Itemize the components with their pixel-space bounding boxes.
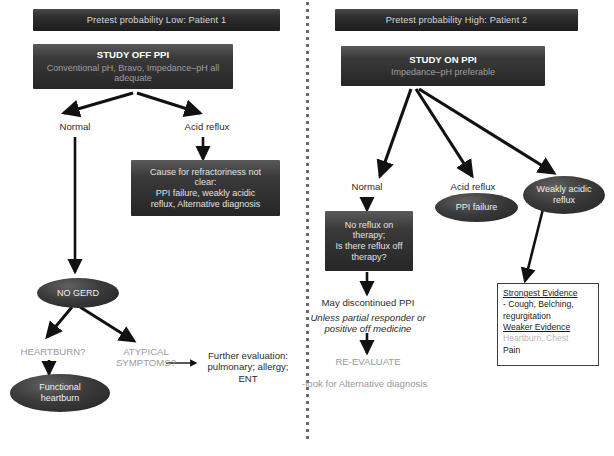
right-unless-line-1: positive off medicine [325, 323, 412, 334]
flowchart-canvas: Pretest probability Low: Patient 1 STUDY… [0, 0, 614, 456]
arrow-left-gerd-atypical [80, 307, 134, 341]
right-panel-header-text: Pretest probability High: Patient 2 [386, 15, 528, 26]
left-further-eval-line-2: ENT [238, 373, 257, 384]
right-branch-acid-reflux-label: Acid reflux [440, 180, 506, 194]
arrow-left-fork-acid [137, 93, 200, 113]
right-no-reflux-box: No reflux on therapy; Is there reflux of… [325, 211, 413, 271]
right-unless-line-0: Unless partial responder or [310, 312, 425, 323]
left-cause-box-line-1: clear: [194, 177, 216, 188]
left-branch-acid-reflux-label: Acid reflux [170, 120, 244, 134]
right-branch-normal-label: Normal [336, 180, 398, 194]
arrow-left-gerd-heartburn [47, 307, 72, 337]
left-further-eval-line-1: pulmonary; allergy; [207, 361, 288, 372]
left-further-evaluation: Further evaluation: pulmonary; allergy; … [198, 349, 298, 385]
left-functional-heartburn-oval: Functional heartburn [10, 374, 110, 412]
right-weakly-line-0: Weakly acidic [537, 184, 592, 195]
left-study-box: STUDY OFF PPI Conventional pH, Bravo, Im… [33, 44, 233, 89]
right-study-box-subtitle: Impedance–pH preferable [391, 67, 495, 78]
right-ppi-failure-label: PPI failure [456, 202, 498, 213]
left-cause-box-line-2: PPI failure, weakly acidic [156, 188, 256, 199]
arrow-right-fork-acid [416, 89, 472, 176]
right-evidence-box: Strongest Evidence - Cough, Belching, re… [497, 283, 599, 366]
right-study-box: STUDY ON PPI Impedance–pH preferable [341, 46, 545, 86]
right-panel-header: Pretest probability High: Patient 2 [335, 9, 578, 31]
right-no-reflux-line-2: Is there reflux off [336, 241, 403, 252]
arrow-right-weakly-down [525, 209, 543, 281]
arrow-right-fork-normal [380, 89, 411, 176]
right-ppi-failure-oval: PPI failure [435, 193, 518, 222]
evidence-weaker-item-1: Pain [503, 345, 593, 356]
left-branch-normal-label: Normal [40, 120, 110, 134]
left-panel-header: Pretest probability Low: Patient 1 [33, 9, 280, 31]
left-atypical-symptoms-question: ATYPICAL SYMPTOMS? [111, 343, 181, 371]
left-functional-line-0: Functional [39, 382, 81, 393]
left-further-eval-line-0: Further evaluation: [208, 350, 288, 361]
right-re-evaluate: RE-EVALUATE [318, 355, 418, 369]
right-weakly-acidic-reflux-oval: Weakly acidic reflux [523, 176, 605, 214]
evidence-weaker-title: Weaker Evidence [503, 322, 593, 333]
right-weakly-line-1: reflux [553, 195, 575, 206]
left-cause-box: Cause for refractoriness not clear: PPI … [131, 160, 280, 216]
evidence-strongest-item-0: - Cough, Belching, [503, 299, 593, 310]
left-heartburn-question: HEARTBURN? [14, 345, 92, 359]
right-study-box-title: STUDY ON PPI [409, 54, 477, 65]
left-functional-line-1: heartburn [41, 393, 80, 404]
left-cause-box-line-0: Cause for refractoriness not [150, 167, 261, 178]
right-no-reflux-line-3: therapy? [351, 252, 386, 263]
left-panel-header-text: Pretest probability Low: Patient 1 [87, 15, 226, 26]
right-no-reflux-line-0: No reflux on [345, 220, 394, 231]
right-look-alternative-diagnosis: -look for Alternative diagnosis [302, 377, 472, 391]
evidence-weaker-item-0: Heartburn, Chest [503, 333, 593, 344]
left-no-gerd-oval: NO GERD [37, 278, 119, 308]
left-cause-box-line-3: reflux, Alternative diagnosis [151, 199, 261, 210]
right-no-reflux-line-1: therapy; [353, 230, 386, 241]
left-atypical-line-1: SYMPTOMS? [116, 357, 176, 368]
evidence-strongest-title: Strongest Evidence [503, 288, 593, 299]
right-may-discontinue-ppi: May discontinued PPI [305, 296, 431, 309]
left-study-box-title: STUDY OFF PPI [97, 49, 169, 60]
left-atypical-line-0: ATYPICAL [123, 346, 169, 357]
left-no-gerd-label: NO GERD [57, 288, 99, 299]
arrow-left-fork-normal [64, 93, 133, 113]
left-study-box-subtitle: Conventional pH, Bravo, Impedance–pH all… [38, 63, 228, 84]
evidence-strongest-item-1: regurgitation [503, 311, 593, 322]
right-unless-note: Unless partial responder or positive off… [300, 311, 436, 335]
arrow-right-fork-weakly [419, 89, 554, 173]
panel-divider [306, 2, 309, 442]
